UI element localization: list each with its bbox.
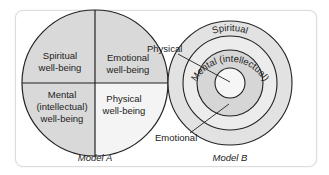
physical-callout-label: Physical xyxy=(147,43,182,54)
quadrant-emotional-line2: well-being xyxy=(106,64,150,75)
quadrant-mental-line2: (intellectual) xyxy=(36,101,87,112)
quadrant-physical-line1: Physical xyxy=(106,93,141,104)
emotional-callout-label: Emotional xyxy=(155,132,197,143)
model-b-caption: Model B xyxy=(213,152,249,163)
quadrant-emotional-line1: Emotional xyxy=(107,52,149,63)
wellbeing-models-diagram: Spiritual well-being Emotional well-bein… xyxy=(0,0,329,175)
model-a-caption: Model A xyxy=(78,152,113,163)
quadrant-spiritual-line2: well-being xyxy=(38,62,82,73)
quadrant-mental-line1: Mental xyxy=(48,89,77,100)
quadrant-mental-line3: well-being xyxy=(40,113,84,124)
quadrant-physical-line2: well-being xyxy=(102,105,146,116)
model-b-rings xyxy=(168,21,292,145)
ring-physical xyxy=(215,68,245,98)
quadrant-spiritual-line1: Spiritual xyxy=(43,50,77,61)
